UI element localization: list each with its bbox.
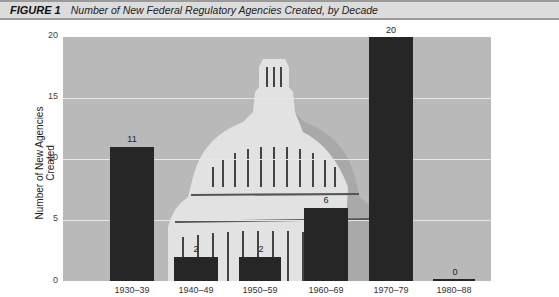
- bar-value-1970-79: 20: [369, 25, 413, 35]
- gridline-15: [63, 98, 491, 99]
- y-tick-15: 15: [40, 91, 58, 101]
- bar-1960-69: [304, 208, 348, 281]
- x-tick-1980-88: 1980–88: [424, 285, 484, 295]
- y-tick-20: 20: [40, 30, 58, 40]
- x-tick-1970-79: 1970–79: [361, 285, 421, 295]
- bar-value-1930-39: 11: [110, 134, 154, 144]
- y-tick-10: 10: [40, 152, 58, 162]
- bar-value-1960-69: 6: [304, 195, 348, 205]
- bar-value-1980-88: 0: [433, 267, 477, 277]
- bar-1980-88: [433, 279, 475, 281]
- bar-1970-79: [369, 37, 413, 281]
- x-tick-1930-39: 1930–39: [102, 285, 162, 295]
- figure-title: Number of New Federal Regulatory Agencie…: [71, 4, 378, 16]
- y-tick-5: 5: [40, 213, 58, 223]
- figure-title-bar: FIGURE 1 Number of New Federal Regulator…: [0, 0, 559, 20]
- x-tick-1950-59: 1950–59: [230, 285, 290, 295]
- bar-1950-59: [239, 257, 281, 281]
- bar-value-1940-49: 2: [174, 244, 218, 254]
- x-tick-1940-49: 1940–49: [166, 285, 226, 295]
- y-tick-0: 0: [40, 275, 58, 285]
- bar-1930-39: [110, 147, 154, 281]
- bar-1940-49: [174, 257, 218, 281]
- bar-value-1950-59: 2: [239, 244, 283, 254]
- x-tick-1960-69: 1960–69: [296, 285, 356, 295]
- plot-area: 11 2 2 6 0: [63, 37, 491, 281]
- figure-label: FIGURE 1: [10, 4, 61, 16]
